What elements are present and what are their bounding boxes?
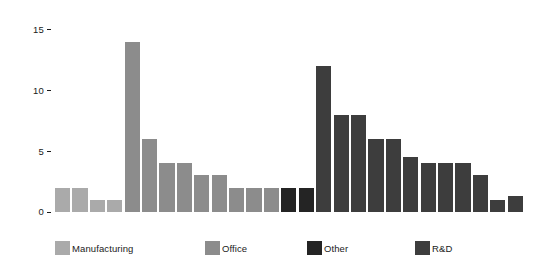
y-axis-tick-label: 0 [39, 206, 44, 218]
y-axis-tick-10: 10 [33, 84, 55, 96]
y-axis-tick-label: 5 [39, 146, 44, 158]
legend-item-office: Office [205, 240, 247, 256]
bar [55, 188, 70, 212]
bar [125, 42, 140, 213]
bar-chart: 051015 Manufacturing Office Other R&D [0, 0, 536, 278]
y-axis-tick-mark [47, 29, 51, 30]
y-axis-tick-label: 10 [33, 85, 44, 97]
bar [159, 163, 174, 212]
bar [403, 157, 418, 212]
bar [281, 188, 296, 212]
bar [264, 188, 279, 212]
y-axis-tick-5: 5 [39, 145, 55, 157]
y-axis-tick-mark [47, 212, 51, 213]
bar [246, 188, 261, 212]
legend-swatch-manufacturing [55, 241, 70, 255]
legend-swatch-other [307, 241, 322, 255]
y-axis-tick-mark [47, 151, 51, 152]
bar [438, 163, 453, 212]
y-axis: 051015 [0, 22, 55, 212]
bar [299, 188, 314, 212]
bar [386, 139, 401, 212]
bar [368, 139, 383, 212]
legend-item-manufacturing: Manufacturing [55, 240, 134, 256]
bar [316, 66, 331, 212]
bar [229, 188, 244, 212]
y-axis-tick-0: 0 [39, 206, 55, 218]
bar [334, 115, 349, 212]
bar [90, 200, 105, 212]
bar [490, 200, 505, 212]
y-axis-tick-label: 15 [33, 24, 44, 36]
legend-swatch-rd [415, 241, 430, 255]
legend-label-manufacturing: Manufacturing [72, 243, 134, 254]
bar [142, 139, 157, 212]
bar [455, 163, 470, 212]
bar [473, 175, 488, 212]
bar [177, 163, 192, 212]
bar-series-container [55, 22, 525, 212]
legend-swatch-office [205, 241, 220, 255]
bar [421, 163, 436, 212]
bar [212, 175, 227, 212]
bar [107, 200, 122, 212]
legend-label-rd: R&D [432, 243, 452, 254]
y-axis-tick-15: 15 [33, 23, 55, 35]
bar [72, 188, 87, 212]
legend-item-rd: R&D [415, 240, 452, 256]
legend-item-other: Other [307, 240, 348, 256]
legend-label-other: Other [324, 243, 348, 254]
bar [508, 196, 523, 212]
bar [351, 115, 366, 212]
bar [194, 175, 209, 212]
legend-label-office: Office [222, 243, 247, 254]
chart-legend: Manufacturing Office Other R&D [55, 240, 525, 262]
y-axis-tick-mark [47, 90, 51, 91]
plot-area [55, 22, 525, 212]
